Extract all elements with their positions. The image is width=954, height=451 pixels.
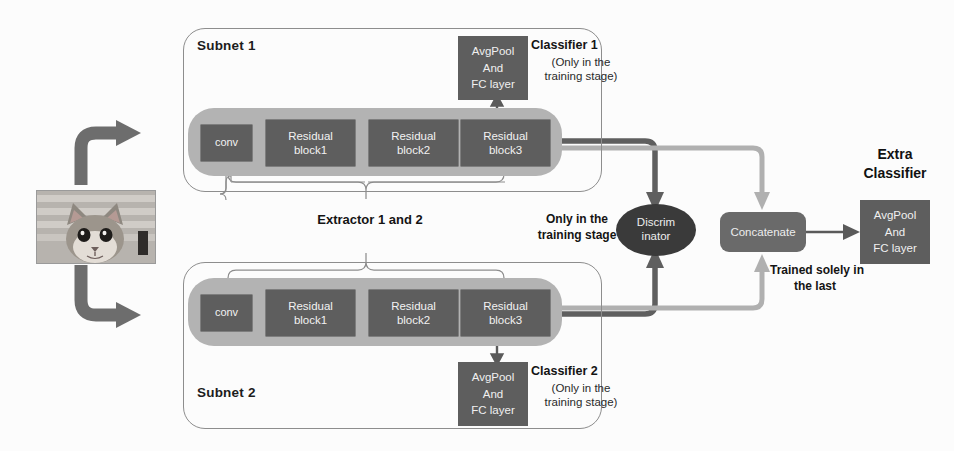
discriminator-line2: inator — [642, 230, 671, 244]
subnet2-res1-line1: Residual — [288, 299, 333, 313]
classifier-2-subtitle-line1: (Only in the — [531, 381, 631, 395]
extra-classifier-box-line1: AvgPool — [874, 207, 917, 224]
subnet1-res2-line1: Residual — [391, 129, 436, 143]
subnet-1-title: Subnet 1 — [197, 38, 256, 53]
subnet2-residual-block2[interactable]: Residual block2 — [369, 290, 458, 336]
discriminator-note: Only in the training stage — [534, 212, 620, 243]
classifier-1-subtitle-line1: (Only in the — [531, 55, 631, 69]
input-image — [36, 190, 156, 264]
concatenate-node[interactable]: Concatenate — [720, 212, 806, 252]
input-arrow-up — [81, 120, 141, 185]
subnet2-res3-line1: Residual — [483, 299, 528, 313]
subnet2-conv-block[interactable]: conv — [201, 295, 252, 331]
classifier2-box-line3: FC layer — [471, 402, 514, 419]
classifier1-box-line3: FC layer — [471, 76, 514, 93]
subnet1-residual-block2[interactable]: Residual block2 — [369, 120, 458, 166]
discriminator-note-line2: training stage — [534, 228, 620, 244]
subnet2-res2-line1: Residual — [391, 299, 436, 313]
subnet2-res2-line2: block2 — [397, 313, 430, 327]
classifier-1-pool-box[interactable]: AvgPool And FC layer — [458, 36, 528, 100]
concatenate-to-extra-classifier-arrow — [806, 224, 860, 240]
diagram-canvas: Subnet 1 conv Residual block1 Residual b… — [0, 0, 954, 451]
classifier2-box-line2: And — [483, 386, 503, 403]
extra-classifier-title-line2: Classifier — [840, 164, 950, 183]
extractor-label: Extractor 1 and 2 — [290, 212, 450, 227]
subnet1-residual-block3[interactable]: Residual block3 — [461, 120, 550, 166]
extra-classifier-box-line3: FC layer — [873, 240, 916, 257]
extractor-label-text: Extractor 1 and 2 — [317, 212, 423, 227]
classifier1-box-line1: AvgPool — [472, 43, 515, 60]
concatenate-note: Trained solely in the last — [770, 263, 890, 294]
subnet1-res1-line2: block1 — [294, 143, 327, 157]
subnet1-residual-block1[interactable]: Residual block1 — [266, 120, 355, 166]
discriminator-node[interactable]: Discrim inator — [616, 204, 696, 256]
classifier-1-title: Classifier 1 — [531, 38, 631, 52]
subnet1-conv-block[interactable]: conv — [201, 125, 252, 161]
subnet2-res3-line2: block3 — [489, 313, 522, 327]
concatenate-note-line2: the last — [770, 279, 890, 295]
discriminator-note-line1: Only in the — [534, 212, 620, 228]
cat-photo-illustration — [37, 191, 155, 263]
extra-classifier-box-line2: And — [885, 224, 905, 241]
subnet-2-title: Subnet 2 — [197, 385, 256, 400]
classifier-2-caption: Classifier 2 (Only in the training stage… — [531, 364, 631, 410]
subnet1-res3-line2: block3 — [489, 143, 522, 157]
classifier-1-subtitle-line2: training stage) — [531, 69, 631, 83]
subnet2-residual-block3[interactable]: Residual block3 — [461, 290, 550, 336]
classifier-2-title: Classifier 2 — [531, 364, 631, 378]
concatenate-note-line1: Trained solely in — [770, 263, 890, 279]
classifier1-box-line2: And — [483, 60, 503, 77]
subnet1-res2-line2: block2 — [397, 143, 430, 157]
subnet1-res3-line1: Residual — [483, 129, 528, 143]
extra-classifier-pool-box[interactable]: AvgPool And FC layer — [860, 200, 930, 264]
subnet2-residual-block1[interactable]: Residual block1 — [266, 290, 355, 336]
classifier-2-subtitle-line2: training stage) — [531, 395, 631, 409]
classifier-1-caption: Classifier 1 (Only in the training stage… — [531, 38, 631, 84]
subnet2-res1-line2: block1 — [294, 313, 327, 327]
classifier-2-pool-box[interactable]: AvgPool And FC layer — [458, 362, 528, 426]
input-arrow-down — [81, 265, 141, 328]
subnet1-res1-line1: Residual — [288, 129, 333, 143]
discriminator-line1: Discrim — [637, 216, 675, 230]
extra-classifier-title: Extra Classifier — [840, 145, 950, 183]
classifier2-box-line1: AvgPool — [472, 369, 515, 386]
extra-classifier-title-line1: Extra — [840, 145, 950, 164]
